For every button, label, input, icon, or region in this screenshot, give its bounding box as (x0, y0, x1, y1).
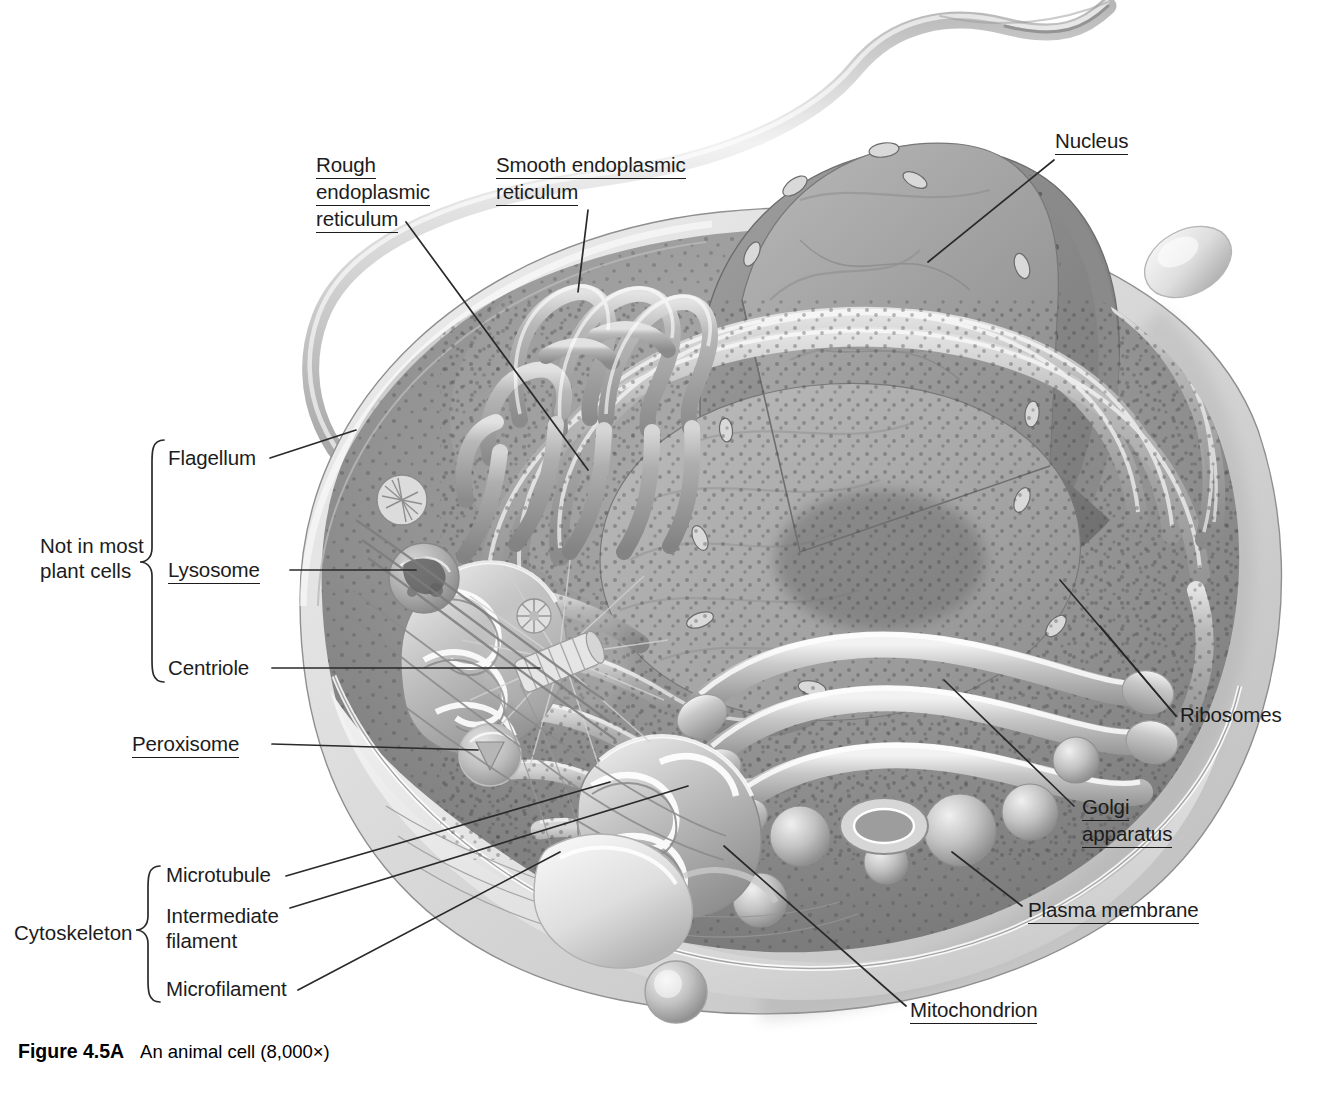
label-nucleus: Nucleus (1055, 128, 1128, 155)
label-rough-er-line3: reticulum (316, 206, 398, 233)
basal-body (377, 475, 427, 525)
brace-not-in-plant-cells (140, 440, 164, 682)
label-golgi-line2: apparatus (1082, 821, 1172, 848)
label-golgi-apparatus: Golgiapparatus (1082, 794, 1172, 848)
label-smooth-er-line1: Smooth endoplasmic (496, 152, 686, 179)
label-plasma-membrane: Plasma membrane (1028, 897, 1199, 924)
figure-caption: Figure 4.5A An animal cell (8,000×) (18, 1040, 330, 1063)
label-golgi-line1: Golgi (1082, 794, 1129, 821)
label-flagellum: Flagellum (168, 445, 256, 470)
label-microfilament: Microfilament (166, 976, 287, 1001)
label-mitochondrion: Mitochondrion (910, 997, 1037, 1024)
brace-cytoskeleton (136, 866, 160, 1002)
label-rough-endoplasmic-reticulum: Roughendoplasmicreticulum (316, 152, 430, 233)
label-smooth-er-line2: reticulum (496, 179, 578, 206)
label-intermediate-filament-line2: filament (166, 928, 237, 953)
label-smooth-endoplasmic-reticulum: Smooth endoplasmicreticulum (496, 152, 686, 206)
label-intermediate-filament-line1: Intermediate (166, 903, 279, 928)
figure-number: Figure 4.5A (18, 1040, 124, 1062)
label-centriole: Centriole (168, 655, 249, 680)
figure-caption-text: An animal cell (8,000×) (140, 1041, 330, 1062)
label-rough-er-line1: Rough (316, 152, 376, 179)
label-peroxisome: Peroxisome (132, 731, 239, 758)
peroxisome (459, 724, 521, 786)
label-lysosome: Lysosome (168, 557, 260, 584)
figure-animal-cell: Roughendoplasmicreticulum Smooth endopla… (0, 0, 1318, 1115)
label-microtubule: Microtubule (166, 862, 271, 887)
label-rough-er-line2: endoplasmic (316, 179, 430, 206)
braces (136, 440, 164, 1002)
label-ribosomes: Ribosomes (1180, 702, 1282, 727)
label-intermediate-filament: Intermediatefilament (166, 903, 279, 953)
